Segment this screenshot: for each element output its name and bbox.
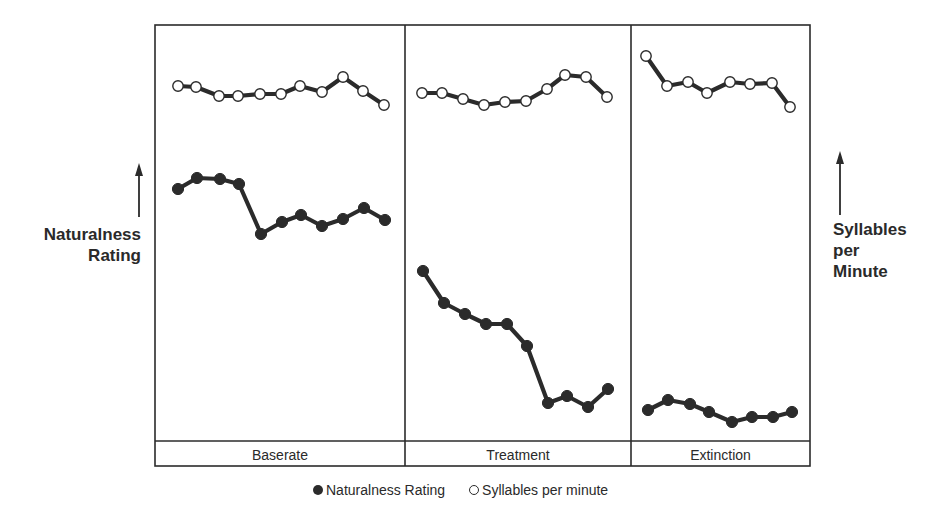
naturalness-marker <box>684 398 695 409</box>
syllables-per-minute-markers <box>173 51 795 112</box>
syllables-marker <box>602 92 612 102</box>
syllables-marker <box>641 51 651 61</box>
syllables-marker <box>317 87 327 97</box>
legend-item-syllables: Syllables per minute <box>469 482 608 498</box>
naturalness-marker <box>662 394 673 405</box>
naturalness-marker <box>480 318 491 329</box>
naturalness-segment <box>423 271 608 407</box>
naturalness-marker <box>786 406 797 417</box>
chart-canvas <box>0 0 943 521</box>
syllables-marker <box>276 89 286 99</box>
naturalness-marker <box>172 183 183 194</box>
naturalness-marker <box>642 404 653 415</box>
left-arrow-up-icon <box>135 163 143 217</box>
right-axis-label-line-1: Syllables <box>833 219 907 240</box>
naturalness-marker <box>602 383 613 394</box>
legend-label-naturalness: Naturalness Rating <box>326 482 445 498</box>
legend: Naturalness Rating Syllables per minute <box>313 482 632 498</box>
syllables-marker <box>479 100 489 110</box>
open-circle-icon <box>469 485 479 495</box>
right-axis-label-line-3: Minute <box>833 261 907 282</box>
naturalness-marker <box>379 214 390 225</box>
syllables-segment <box>422 75 607 105</box>
phase-label-extinction: Extinction <box>631 444 810 466</box>
syllables-marker <box>500 97 510 107</box>
syllables-marker <box>542 84 552 94</box>
syllables-marker <box>767 78 777 88</box>
syllables-marker <box>521 96 531 106</box>
syllables-marker <box>191 82 201 92</box>
naturalness-marker <box>582 401 593 412</box>
naturalness-marker <box>726 416 737 427</box>
syllables-marker <box>437 88 447 98</box>
left-axis-label-line-2: Rating <box>44 245 141 266</box>
right-axis-label: Syllables per Minute <box>833 219 907 282</box>
syllables-marker <box>785 102 795 112</box>
right-axis-label-line-2: per <box>833 240 907 261</box>
syllables-marker <box>458 94 468 104</box>
naturalness-marker <box>417 265 428 276</box>
syllables-marker <box>379 100 389 110</box>
naturalness-marker <box>459 308 470 319</box>
syllables-marker <box>417 88 427 98</box>
naturalness-marker <box>542 397 553 408</box>
left-axis-label-line-1: Naturalness <box>44 224 141 245</box>
naturalness-marker <box>746 411 757 422</box>
syllables-marker <box>255 89 265 99</box>
syllables-marker <box>662 81 672 91</box>
left-axis-label: Naturalness Rating <box>44 224 141 266</box>
naturalness-marker <box>255 228 266 239</box>
legend-item-naturalness: Naturalness Rating <box>313 482 445 498</box>
naturalness-marker <box>337 213 348 224</box>
naturalness-marker <box>501 318 512 329</box>
naturalness-marker <box>276 216 287 227</box>
syllables-marker <box>581 72 591 82</box>
naturalness-marker <box>703 406 714 417</box>
syllables-marker <box>233 91 243 101</box>
naturalness-rating-line <box>178 178 792 422</box>
filled-circle-icon <box>313 485 323 495</box>
naturalness-marker <box>767 411 778 422</box>
syllables-marker <box>702 88 712 98</box>
naturalness-marker <box>214 173 225 184</box>
syllables-marker <box>725 77 735 87</box>
syllables-marker <box>683 77 693 87</box>
syllables-marker <box>358 86 368 96</box>
syllables-marker <box>560 70 570 80</box>
naturalness-marker <box>233 178 244 189</box>
syllables-marker <box>214 91 224 101</box>
syllables-marker <box>295 81 305 91</box>
syllables-marker <box>173 81 183 91</box>
phase-label-treatment: Treatment <box>405 444 631 466</box>
naturalness-marker <box>316 220 327 231</box>
naturalness-marker <box>358 202 369 213</box>
naturalness-marker <box>191 172 202 183</box>
syllables-marker <box>745 79 755 89</box>
naturalness-marker <box>438 297 449 308</box>
naturalness-marker <box>295 209 306 220</box>
naturalness-marker <box>521 340 532 351</box>
naturalness-rating-markers <box>172 172 797 427</box>
phase-label-baserate: Baserate <box>155 444 405 466</box>
naturalness-marker <box>561 390 572 401</box>
right-arrow-up-icon <box>836 151 844 215</box>
syllables-marker <box>338 72 348 82</box>
legend-label-syllables: Syllables per minute <box>482 482 608 498</box>
